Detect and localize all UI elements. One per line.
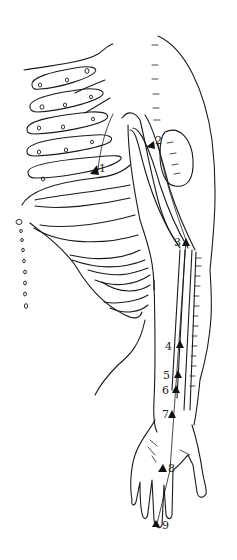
arrow-marker-9: [152, 520, 160, 527]
rib-row-5: [28, 156, 121, 181]
spine-dots: [16, 220, 28, 309]
arrow-marker-4: [176, 340, 184, 348]
rib-lower-11: [104, 295, 148, 303]
point-label-2: 2: [155, 134, 162, 147]
arrow-marker-6: [172, 385, 180, 393]
forearm-left: [154, 280, 157, 432]
humerus-outer: [122, 113, 180, 248]
point-label-5: 5: [163, 369, 170, 382]
arrow-marker-8: [158, 464, 167, 472]
arrow-marker-7: [168, 410, 176, 418]
scapula: [160, 130, 193, 186]
scapula-ticks: [167, 142, 180, 174]
rib-lower-4: [40, 215, 135, 227]
rib-lower-3: [35, 198, 130, 207]
torso-side: [95, 320, 145, 395]
point-label-1: 1: [99, 162, 106, 175]
rib-lower-7: [72, 260, 145, 267]
point-label-4: 4: [165, 340, 172, 353]
point-label-6: 6: [162, 384, 169, 397]
anatomy-diagram: 1 2 3 4 5 6 7 8 9: [0, 0, 237, 560]
rib-lower-8: [88, 268, 148, 275]
rib-row-4: [27, 135, 112, 156]
palm-lines: [148, 440, 157, 462]
point-label-3: 3: [174, 236, 181, 249]
point-label-8: 8: [168, 462, 175, 475]
point-label-7: 7: [162, 408, 169, 421]
rib-lower-5: [34, 228, 138, 242]
upper-arm-left: [128, 125, 154, 290]
shoulder-ticks: [152, 45, 160, 120]
rib-line-2: [85, 98, 110, 113]
rib-lower-12: [110, 305, 148, 312]
arrow-marker-1: [90, 165, 99, 175]
rib-row-1: [32, 67, 96, 89]
rib-lower-10: [102, 282, 150, 291]
arrow-marker-5: [174, 370, 182, 378]
rib-lower-6: [70, 250, 140, 259]
point-label-9: 9: [162, 519, 169, 532]
rib-row-3: [27, 112, 108, 134]
clavicle: [24, 44, 113, 70]
ribcage-edge: [30, 223, 142, 318]
thumb-crease: [180, 450, 190, 455]
